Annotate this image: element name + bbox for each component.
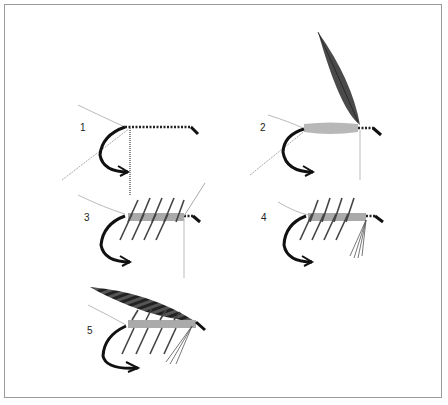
step-5-fly: [88, 287, 205, 372]
step-3-fly: [78, 183, 205, 278]
fly-tying-illustration: [0, 0, 448, 405]
step-2-fly: [250, 32, 381, 180]
step-4-fly: [278, 198, 383, 266]
step-1-fly: [62, 105, 198, 195]
